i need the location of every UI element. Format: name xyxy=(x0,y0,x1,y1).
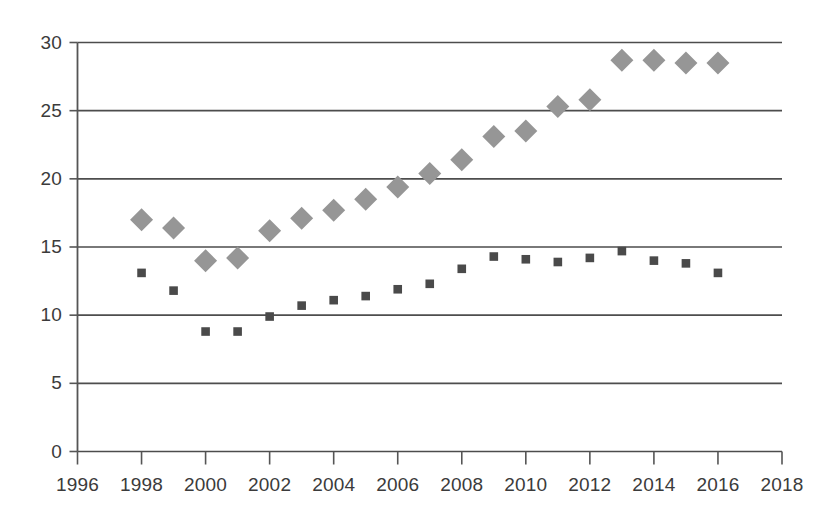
data-point-2012 xyxy=(578,88,601,111)
x-tick-label-2008: 2008 xyxy=(440,474,483,496)
x-tick-label-2006: 2006 xyxy=(376,474,419,496)
x-tick-label-2000: 2000 xyxy=(184,474,227,496)
x-tick-label-2014: 2014 xyxy=(632,474,675,496)
x-tick-label-2012: 2012 xyxy=(568,474,611,496)
y-tick-label-15: 15 xyxy=(14,236,62,258)
x-tick-label-2010: 2010 xyxy=(504,474,547,496)
y-tick-label-0: 0 xyxy=(14,441,62,463)
series-diamond-markers xyxy=(130,49,729,272)
y-tick-label-10: 10 xyxy=(14,304,62,326)
y-tick-label-20: 20 xyxy=(14,168,62,190)
data-point-2001 xyxy=(226,246,249,269)
x-tick-label-2004: 2004 xyxy=(312,474,355,496)
data-point-1999 xyxy=(162,216,185,239)
data-point-2016 xyxy=(714,269,723,278)
data-point-2014 xyxy=(642,49,665,72)
data-point-1999 xyxy=(169,286,178,295)
data-point-2013 xyxy=(610,49,633,72)
data-point-2011 xyxy=(554,258,563,267)
data-point-2005 xyxy=(354,188,377,211)
data-point-2002 xyxy=(258,219,281,242)
data-point-2006 xyxy=(393,285,402,294)
data-point-2013 xyxy=(618,247,627,256)
y-axis-ticks xyxy=(70,43,78,452)
data-point-2008 xyxy=(457,265,466,274)
gridlines xyxy=(78,43,783,452)
data-point-2003 xyxy=(290,207,313,230)
x-tick-label-2018: 2018 xyxy=(760,474,803,496)
data-point-2003 xyxy=(297,301,306,310)
data-point-2004 xyxy=(329,296,338,305)
data-point-2010 xyxy=(514,120,537,143)
data-point-1998 xyxy=(130,208,153,231)
data-point-2005 xyxy=(361,292,370,301)
data-point-1998 xyxy=(137,269,146,278)
data-point-2001 xyxy=(233,327,242,336)
y-tick-label-5: 5 xyxy=(14,372,62,394)
data-point-2010 xyxy=(522,255,531,264)
x-tick-label-1998: 1998 xyxy=(120,474,163,496)
y-tick-label-25: 25 xyxy=(14,100,62,122)
data-point-2015 xyxy=(674,51,697,74)
data-point-2004 xyxy=(322,199,345,222)
chart-container: 051015202530 199619982000200220042006200… xyxy=(0,0,833,523)
plot-area xyxy=(0,0,833,523)
data-point-2014 xyxy=(650,256,659,265)
y-tick-label-30: 30 xyxy=(14,32,62,54)
x-tick-label-2002: 2002 xyxy=(248,474,291,496)
series-square-markers xyxy=(137,247,722,336)
data-point-2011 xyxy=(546,95,569,118)
data-point-2015 xyxy=(682,259,691,268)
x-tick-label-1996: 1996 xyxy=(56,474,99,496)
x-axis-ticks xyxy=(78,452,783,465)
data-point-2009 xyxy=(490,252,499,261)
data-point-2012 xyxy=(586,254,595,263)
data-point-2000 xyxy=(194,249,217,272)
data-point-2009 xyxy=(482,125,505,148)
data-point-2000 xyxy=(201,327,210,336)
data-point-2016 xyxy=(706,51,729,74)
data-point-2002 xyxy=(265,312,274,321)
x-tick-label-2016: 2016 xyxy=(696,474,739,496)
data-point-2008 xyxy=(450,148,473,171)
data-point-2007 xyxy=(418,162,441,185)
data-point-2007 xyxy=(425,280,434,289)
